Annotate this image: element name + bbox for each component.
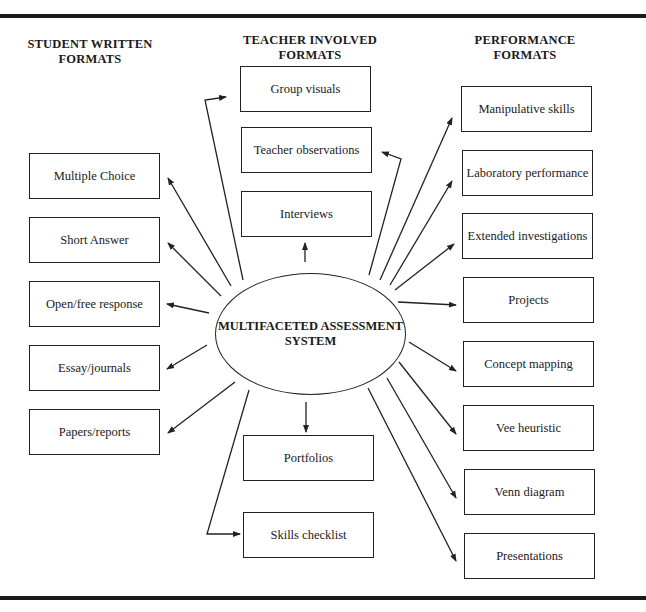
node-projects: Projects: [463, 277, 594, 323]
node-vee-heuristic: Vee heuristic: [463, 405, 594, 451]
node-manipulative-skills: Manipulative skills: [461, 86, 592, 132]
node-laboratory-performance: Laboratory performance: [462, 150, 593, 196]
node-short-answer: Short Answer: [29, 217, 160, 263]
node-papers-reports: Papers/reports: [29, 409, 160, 455]
node-multiple-choice: Multiple Choice: [29, 153, 160, 199]
node-skills-checklist: Skills checklist: [243, 512, 374, 558]
node-essay-journals: Essay/journals: [29, 345, 160, 391]
node-portfolios: Portfolios: [243, 435, 374, 481]
node-group-visuals: Group visuals: [240, 66, 371, 112]
node-extended-investigations: Extended investigations: [462, 213, 593, 259]
node-concept-mapping: Concept mapping: [463, 341, 594, 387]
node-interviews: Interviews: [241, 191, 372, 237]
node-teacher-observations: Teacher observations: [241, 127, 372, 173]
node-venn-diagram: Venn diagram: [464, 469, 595, 515]
center-node-multifaceted-assessment-system: MULTIFACETED ASSESSMENT SYSTEM: [215, 273, 406, 395]
node-open-free-response: Open/free response: [29, 281, 160, 327]
node-presentations: Presentations: [464, 533, 595, 579]
